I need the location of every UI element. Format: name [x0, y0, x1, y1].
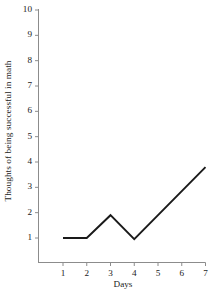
- y-tick-label: 7: [16, 80, 32, 90]
- x-axis-ticks: [63, 263, 206, 267]
- y-tick-label: 8: [16, 55, 32, 65]
- y-tick-label: 3: [16, 181, 32, 191]
- line-chart: Thoughts of being successful in math 123…: [0, 0, 213, 300]
- y-tick-label: 6: [16, 105, 32, 115]
- y-tick-label: 5: [16, 131, 32, 141]
- y-tick-label: 1: [16, 232, 32, 242]
- x-tick-label: 1: [55, 268, 71, 278]
- y-tick-label: 10: [16, 4, 32, 14]
- x-tick-label: 4: [126, 268, 142, 278]
- data-series-line: [63, 167, 206, 239]
- x-axis-title: Days: [38, 279, 208, 289]
- x-tick-label: 3: [103, 268, 119, 278]
- x-tick-label: 5: [150, 268, 166, 278]
- y-tick-label: 4: [16, 156, 32, 166]
- y-tick-label: 2: [16, 207, 32, 217]
- x-tick-label: 2: [79, 268, 95, 278]
- x-tick-label: 7: [198, 268, 214, 278]
- y-axis-ticks: [35, 10, 39, 238]
- axis-lines: [38, 9, 206, 263]
- y-tick-label: 9: [16, 29, 32, 39]
- plot-area: [0, 0, 213, 300]
- x-tick-label: 6: [174, 268, 190, 278]
